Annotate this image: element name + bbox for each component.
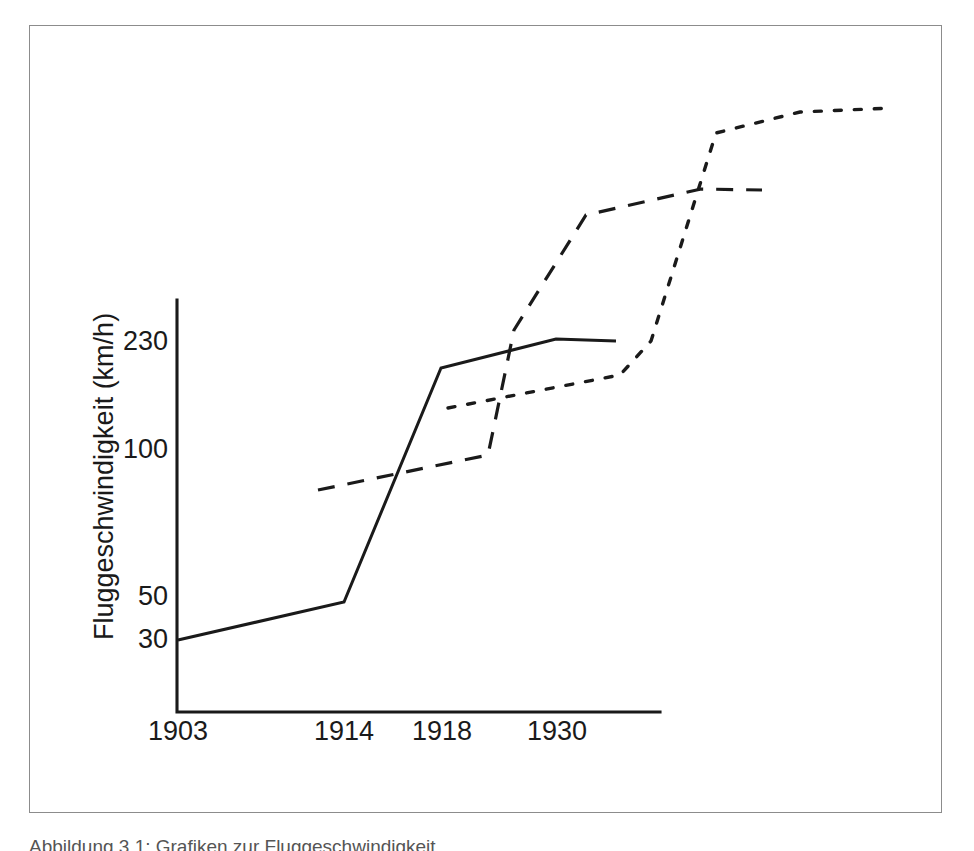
- figure-root: 230 100 50 30 1903 1914 1918 1930 Flugge…: [0, 0, 974, 851]
- axis-lines: [177, 300, 660, 712]
- y-tick-label-30: 30: [138, 624, 168, 654]
- series-line-dashed: [318, 189, 762, 490]
- axes-group: [177, 300, 660, 712]
- chart-canvas: 230 100 50 30 1903 1914 1918 1930 Flugge…: [0, 0, 974, 851]
- x-tick-label-1914: 1914: [314, 716, 374, 746]
- y-tick-labels-group: 230 100 50 30: [123, 326, 168, 654]
- x-tick-label-1903: 1903: [148, 716, 208, 746]
- x-tick-label-1930: 1930: [527, 716, 587, 746]
- series-line-solid: [178, 339, 616, 640]
- y-axis-label: Fluggeschwindigkeit (km/h): [89, 313, 119, 640]
- x-tick-label-1918: 1918: [412, 716, 472, 746]
- y-tick-label-230: 230: [123, 326, 168, 356]
- figure-caption: Abbildung 3.1: Grafiken zur Fluggeschwin…: [29, 836, 436, 851]
- y-tick-label-50: 50: [138, 581, 168, 611]
- series-group: [178, 108, 893, 640]
- y-tick-label-100: 100: [123, 434, 168, 464]
- series-line-dotted: [448, 108, 893, 408]
- x-tick-labels-group: 1903 1914 1918 1930: [148, 716, 587, 746]
